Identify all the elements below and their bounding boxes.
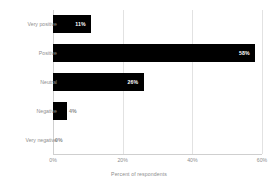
- bar-value-label: 26%: [128, 79, 139, 85]
- category-label-positive: Positive: [0, 50, 57, 56]
- bar-value-label: 58%: [239, 50, 250, 56]
- gridline-60pct: [262, 10, 263, 154]
- bar-value-label: 4%: [69, 108, 77, 114]
- category-label-negative: Negative: [0, 108, 57, 114]
- x-axis-title: Percent of respondents: [0, 171, 278, 177]
- bar-value-label: 11%: [75, 21, 85, 27]
- bar-row: 4%: [53, 96, 262, 125]
- bar-row: 58%: [53, 39, 262, 68]
- x-tick-label: 60%: [257, 157, 267, 163]
- bar-chart: 11%58%26%4%0% Very positivePositiveNeutr…: [0, 0, 278, 185]
- x-tick-label: 0%: [49, 157, 57, 163]
- bar[interactable]: [53, 44, 255, 62]
- category-label-neutral: Neutral: [0, 79, 57, 85]
- x-tick-label: 20%: [117, 157, 127, 163]
- bar-row: 11%: [53, 10, 262, 39]
- x-axis-line: [53, 154, 262, 155]
- category-label-very-positive: Very positive: [0, 21, 57, 27]
- bar-row: 26%: [53, 68, 262, 97]
- x-tick-label: 40%: [187, 157, 197, 163]
- category-label-very-negative: Very negative: [0, 137, 57, 143]
- bar-row: 0%: [53, 125, 262, 154]
